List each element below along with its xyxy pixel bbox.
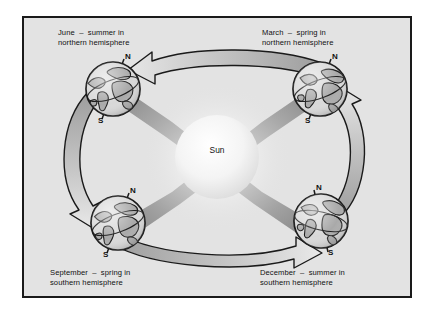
sun-body — [175, 115, 259, 199]
globe-december-south-label: S — [328, 248, 333, 257]
globe-september-shading — [91, 196, 145, 250]
caption-june: June – summer in northern hemisphere — [58, 28, 130, 48]
globe-june-north-label: N — [125, 52, 131, 61]
diagram-frame: N S N S N S N S Sun June – summer in nor… — [22, 16, 412, 298]
globe-december-north-label: N — [316, 183, 322, 192]
seasons-orbit-graphic — [24, 18, 410, 296]
globe-december-shading — [294, 194, 348, 248]
caption-september: September – spring in southern hemispher… — [50, 268, 130, 288]
caption-march: March – spring in northern hemisphere — [262, 28, 334, 48]
orbit-arrow-bottom-icon — [112, 233, 322, 268]
caption-december: December – summer in southern hemisphere — [260, 268, 345, 288]
globe-june-shading — [86, 62, 140, 116]
orbit-arrow-top-icon — [128, 50, 322, 84]
sun-group — [128, 83, 306, 234]
globe-march-south-label: S — [305, 116, 310, 125]
globe-march-shading — [293, 62, 347, 116]
diagram-stage: N S N S N S N S Sun June – summer in nor… — [24, 18, 410, 296]
globe-june-south-label: S — [98, 116, 103, 125]
globe-september-south-label: S — [103, 250, 108, 259]
sun-label: Sun — [24, 145, 410, 155]
globe-september-north-label: N — [130, 186, 136, 195]
globe-march-north-label: N — [332, 52, 338, 61]
